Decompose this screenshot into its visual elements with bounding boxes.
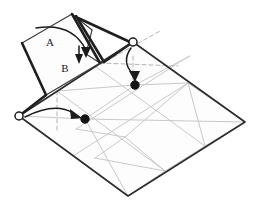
- origami-diagram: A B: [0, 0, 257, 205]
- open-circle-top-right: [129, 38, 137, 46]
- label-a: A: [46, 36, 54, 48]
- filled-dot-right: [131, 81, 139, 89]
- filled-dot-left: [81, 115, 89, 123]
- label-b: B: [61, 62, 68, 74]
- open-circle-left: [15, 112, 23, 120]
- origami-illustration: A B: [0, 0, 257, 205]
